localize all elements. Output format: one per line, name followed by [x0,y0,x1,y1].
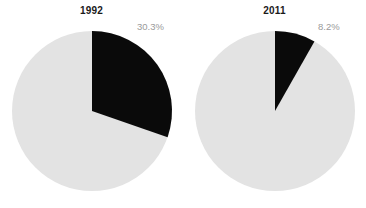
pie-svg-2011 [195,31,355,191]
panel-title-1992: 1992 [0,5,183,17]
pie-chart-figure: 1992 2011 30.3% 8.2% [0,0,366,208]
panel-title-2011: 2011 [183,5,366,17]
pie-svg-1992 [12,31,172,191]
pie-percent-label-1992: 30.3% [137,21,164,33]
pie-2011 [195,31,355,191]
pie-1992 [12,31,172,191]
pie-percent-label-2011: 8.2% [318,21,340,33]
